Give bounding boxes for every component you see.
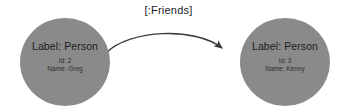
node-property-name: Name: Greg [47, 65, 82, 73]
graph-node-person-greg[interactable]: Label: Person Id: 2 Name: Greg [20, 18, 110, 106]
node-label: Label: Person [252, 40, 318, 52]
node-property-id: Id: 2 [47, 57, 82, 65]
node-properties: Id: 2 Name: Greg [47, 57, 82, 73]
node-property-id: Id: 3 [265, 57, 304, 65]
graph-node-person-kenny[interactable]: Label: Person Id: 3 Name: Kenny [240, 18, 330, 106]
graph-canvas: [:Friends] Label: Person Id: 2 Name: Gre… [0, 0, 337, 111]
node-property-name: Name: Kenny [265, 65, 304, 73]
relationship-label: [:Friends] [0, 4, 337, 16]
node-properties: Id: 3 Name: Kenny [265, 57, 304, 73]
relationship-edge-arrow [106, 34, 222, 53]
node-label: Label: Person [32, 40, 98, 52]
